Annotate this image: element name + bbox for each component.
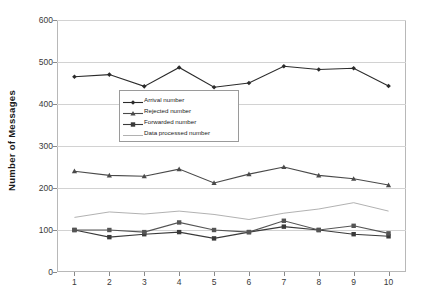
data-point-marker <box>247 230 251 234</box>
x-axis-tick-label: 4 <box>166 277 192 287</box>
x-axis-tick-label: 10 <box>376 277 402 287</box>
y-axis-tick-label: 400 <box>19 99 53 109</box>
x-axis-tick-mark <box>179 272 180 276</box>
data-point-marker <box>142 230 146 234</box>
y-axis-tick-mark <box>53 188 57 189</box>
chart-legend: Arrival numberRejected numberForwarded n… <box>119 90 239 142</box>
legend-item: Forwarded number <box>122 116 235 127</box>
x-axis-tick-mark <box>319 272 320 276</box>
y-axis-tick-label: 200 <box>19 183 53 193</box>
data-point-marker <box>212 85 217 90</box>
y-axis-tick-mark <box>53 272 57 273</box>
data-point-marker <box>282 64 287 69</box>
data-point-marker <box>107 228 111 232</box>
data-point-marker <box>107 235 111 239</box>
data-point-marker <box>351 66 356 71</box>
y-axis-tick-label: 600 <box>19 15 53 25</box>
data-point-marker <box>351 232 355 236</box>
data-point-marker <box>177 220 181 224</box>
plot-area <box>57 20 406 272</box>
x-axis-tick-mark <box>284 272 285 276</box>
y-axis-tick-label: 300 <box>19 141 53 151</box>
data-point-marker <box>281 164 286 169</box>
data-point-marker <box>177 230 181 234</box>
data-point-marker <box>317 228 321 232</box>
x-axis-tick-label: 6 <box>236 277 262 287</box>
legend-swatch-square-icon <box>122 116 144 127</box>
y-axis-tick-mark <box>53 20 57 21</box>
data-point-marker <box>212 228 216 232</box>
data-point-marker <box>72 74 77 79</box>
data-point-marker <box>142 84 147 89</box>
series-line <box>74 227 388 239</box>
x-axis-tick-label: 8 <box>306 277 332 287</box>
series-line <box>74 167 388 185</box>
data-point-marker <box>282 219 286 223</box>
series-layer <box>57 20 406 272</box>
data-point-marker <box>282 224 286 228</box>
x-axis-tick-label: 1 <box>61 277 87 287</box>
x-axis-tick-label: 9 <box>341 277 367 287</box>
x-axis-tick-mark <box>74 272 75 276</box>
data-point-marker <box>386 84 391 89</box>
legend-label: Arrival number <box>144 94 184 105</box>
series-line <box>74 66 388 87</box>
data-point-marker <box>107 72 112 77</box>
x-axis-tick-mark <box>354 272 355 276</box>
legend-swatch-none-icon <box>122 127 144 138</box>
x-axis-tick-mark <box>249 272 250 276</box>
legend-label: Forwarded number <box>144 116 196 127</box>
legend-swatch-diamond-icon <box>122 94 144 105</box>
data-point-marker <box>212 236 216 240</box>
legend-label: Rejected number <box>144 105 191 116</box>
data-point-marker <box>177 167 182 172</box>
data-point-marker <box>351 224 355 228</box>
data-point-marker <box>72 228 76 232</box>
data-point-marker <box>386 231 390 235</box>
line-chart: Number of Messages 0100200300400500600 1… <box>0 0 425 298</box>
legend-item: Data processed number <box>122 127 235 138</box>
y-axis-tick-mark <box>53 230 57 231</box>
y-axis-tick-mark <box>53 62 57 63</box>
y-axis-tick-label: 500 <box>19 57 53 67</box>
y-axis-tick-mark <box>53 146 57 147</box>
y-axis-tick-label: 0 <box>19 267 53 277</box>
legend-label: Data processed number <box>144 127 210 138</box>
x-axis-tick-label: 5 <box>201 277 227 287</box>
x-axis-tick-mark <box>109 272 110 276</box>
x-axis-tick-mark <box>144 272 145 276</box>
x-axis-tick-label: 7 <box>271 277 297 287</box>
legend-item: Arrival number <box>122 94 235 105</box>
x-axis-tick-label: 2 <box>96 277 122 287</box>
x-axis-tick-mark <box>389 272 390 276</box>
data-point-marker <box>177 65 182 70</box>
data-point-marker <box>247 81 252 86</box>
x-axis-tick-label: 3 <box>131 277 157 287</box>
y-axis-tick-mark <box>53 104 57 105</box>
x-axis-tick-mark <box>214 272 215 276</box>
y-axis-title: Number of Messages <box>2 40 20 240</box>
legend-swatch-triangle-icon <box>122 105 144 116</box>
legend-item: Rejected number <box>122 105 235 116</box>
series-line <box>74 203 388 220</box>
data-point-marker <box>316 67 321 72</box>
series-line <box>74 221 388 234</box>
y-axis-tick-label: 100 <box>19 225 53 235</box>
